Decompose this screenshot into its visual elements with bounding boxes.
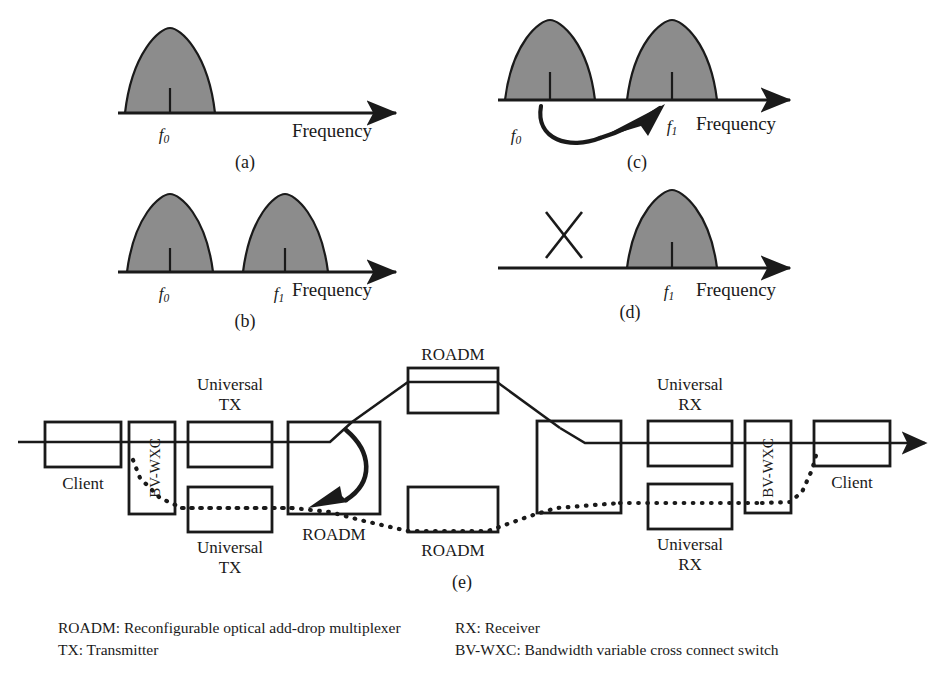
label-bvwxc-right: BV-WXC [760, 438, 776, 497]
frequency-shift-arrow [540, 106, 600, 143]
panel-label-d: (d) [620, 302, 641, 323]
axis-tick-f1-d: f1 [664, 282, 674, 302]
label-roadm-left: ROADM [302, 525, 365, 544]
label-universal-rx-top-1: Universal [657, 375, 723, 394]
axis-tick-f1-c: f1 [667, 117, 677, 137]
upper-path-to-roadm-top [352, 382, 408, 422]
legend-right-line-1: RX: Receiver [455, 619, 541, 636]
roadm-left-switch-arrowhead [308, 486, 348, 508]
axis-label-frequency-a: Frequency [292, 120, 373, 141]
axis-label-frequency-b: Frequency [292, 279, 373, 300]
axis-tick-f0-b: f0 [159, 284, 170, 304]
label-client-right: Client [831, 473, 873, 492]
label-universal-rx-top-2: RX [678, 395, 702, 414]
label-client-left: Client [62, 474, 104, 493]
upper-path-roadm-left-up [290, 422, 352, 442]
upper-path-right [560, 428, 925, 443]
legend: ROADM: Reconfigurable optical add-drop m… [58, 619, 779, 658]
axis-label-frequency-d: Frequency [696, 279, 777, 300]
node-roadm-right[interactable] [537, 421, 621, 513]
axis-label-frequency-c: Frequency [696, 113, 777, 134]
panel-c: f0 f1 Frequency (c) [498, 20, 790, 173]
legend-left-line-2: TX: Transmitter [58, 641, 159, 658]
panel-b: f0 f1 Frequency (b) [118, 194, 396, 332]
axis-tick-f0: f0 [159, 125, 170, 145]
label-universal-rx-bottom-1: Universal [657, 535, 723, 554]
roadm-left-switch-arrow [346, 430, 366, 500]
panel-e-network: Client BV-WXC Universal TX Universal TX … [18, 345, 925, 593]
node-roadm-top[interactable] [408, 368, 498, 413]
legend-right-line-2: BV-WXC: Bandwidth variable cross connect… [455, 641, 779, 658]
label-roadm-bottom: ROADM [421, 541, 484, 560]
label-bvwxc-left: BV-WXC [147, 438, 163, 497]
panel-label-a: (a) [235, 152, 255, 173]
node-client-left[interactable] [45, 422, 121, 467]
panel-a: f0 Frequency (a) [118, 28, 396, 173]
label-universal-tx-top-1: Universal [197, 375, 263, 394]
legend-left-line-1: ROADM: Reconfigurable optical add-drop m… [58, 619, 401, 636]
figure-canvas: f0 Frequency (a) f0 f1 Frequency (b) f0 … [0, 0, 945, 678]
label-roadm-top: ROADM [421, 345, 484, 364]
node-universal-tx-top[interactable] [188, 422, 272, 467]
label-universal-tx-bottom-2: TX [219, 558, 242, 577]
figure-root: f0 Frequency (a) f0 f1 Frequency (b) f0 … [0, 0, 945, 678]
panel-label-c: (c) [627, 152, 647, 173]
panel-d: f1 Frequency (d) [498, 190, 790, 323]
node-universal-rx-bottom[interactable] [648, 484, 732, 529]
label-universal-rx-bottom-2: RX [678, 555, 702, 574]
panel-label-b: (b) [235, 311, 256, 332]
axis-tick-f0-c: f0 [511, 126, 522, 146]
label-universal-tx-bottom-1: Universal [197, 538, 263, 557]
axis-tick-f1-b: f1 [274, 284, 284, 304]
panel-label-e: (e) [452, 572, 472, 593]
label-universal-tx-top-2: TX [219, 395, 242, 414]
node-roadm-bottom[interactable] [408, 487, 498, 532]
